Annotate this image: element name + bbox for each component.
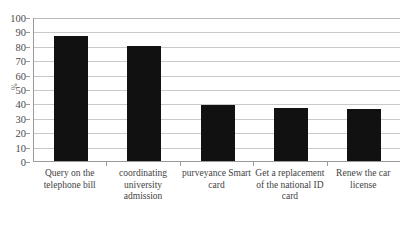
y-axis-tick-mark	[26, 104, 30, 105]
gridline	[34, 76, 400, 77]
y-axis-tick-labels: 0102030405060708090100	[0, 18, 30, 162]
y-axis-tick-mark	[26, 162, 30, 163]
bar	[54, 36, 88, 161]
gridline	[34, 32, 400, 33]
bar	[347, 109, 381, 161]
y-axis-tick-mark	[26, 76, 30, 77]
y-axis-tick-mark	[26, 148, 30, 149]
y-axis-tick-label: 30	[16, 113, 27, 124]
x-axis-tick-mark	[180, 162, 181, 166]
bar-chart-figure: % 0102030405060708090100 Query on the te…	[0, 0, 415, 231]
x-axis-tick-mark	[327, 162, 328, 166]
y-axis-tick-label: 90	[16, 27, 27, 38]
y-axis-tick-label: 50	[16, 85, 27, 96]
y-axis-tick-mark	[26, 32, 30, 33]
y-axis-tick-mark	[26, 90, 30, 91]
gridline	[34, 47, 400, 48]
y-axis-tick-mark	[26, 61, 30, 62]
x-axis-tick-mark	[253, 162, 254, 166]
gridline	[34, 18, 400, 19]
y-axis-tick-label: 100	[10, 13, 26, 24]
y-axis-tick-mark	[26, 18, 30, 19]
bar	[201, 105, 235, 161]
y-axis-tick-mark	[26, 47, 30, 48]
x-axis-category-label: purveyance Smart card	[180, 168, 253, 191]
gridline	[34, 61, 400, 62]
y-axis-tick-mark	[26, 133, 30, 134]
x-axis-category-labels: Query on the telephone billcoordinating …	[33, 168, 400, 228]
y-axis-tick-label: 80	[16, 41, 27, 52]
x-axis-category-label: coordinating university admission	[106, 168, 179, 203]
bar	[127, 46, 161, 161]
x-axis-tick-marks	[33, 162, 400, 167]
x-axis-category-label: Query on the telephone bill	[33, 168, 106, 191]
bar	[274, 108, 308, 161]
gridline	[34, 90, 400, 91]
y-axis-tick-mark	[26, 119, 30, 120]
x-axis-category-label: Renew the car license	[327, 168, 400, 191]
y-axis-tick-label: 40	[16, 99, 27, 110]
y-axis-tick-label: 60	[16, 70, 27, 81]
y-axis-tick-label: 20	[16, 128, 27, 139]
y-axis-tick-label: 10	[16, 142, 27, 153]
y-axis-tick-label: 70	[16, 56, 27, 67]
x-axis-category-label: Get a replacement of the national ID car…	[253, 168, 326, 203]
plot-area	[33, 18, 400, 162]
x-axis-tick-mark	[106, 162, 107, 166]
